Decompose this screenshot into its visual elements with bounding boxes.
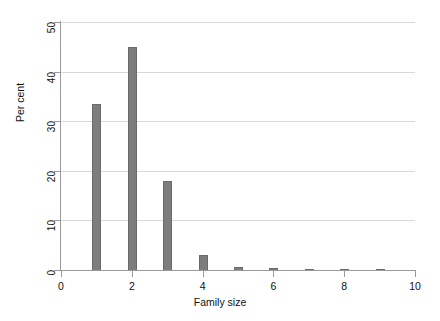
y-axis-line bbox=[60, 21, 61, 271]
x-tick-0 bbox=[61, 271, 62, 277]
gridline-30 bbox=[61, 121, 415, 122]
bar-family-size-4 bbox=[199, 255, 208, 270]
gridline-10 bbox=[61, 220, 415, 221]
x-tick-10 bbox=[415, 271, 416, 277]
y-tick-label-0: 0 bbox=[47, 270, 57, 276]
y-tick-label-20: 20 bbox=[47, 171, 57, 182]
x-tick-label-4: 4 bbox=[188, 280, 218, 292]
x-axis-title: Family size bbox=[0, 296, 440, 308]
gridline-40 bbox=[61, 72, 415, 73]
x-tick-4 bbox=[203, 271, 204, 277]
x-tick-label-2: 2 bbox=[117, 280, 147, 292]
x-axis-line bbox=[61, 270, 416, 271]
bar-family-size-1 bbox=[92, 104, 101, 270]
y-tick-label-10: 10 bbox=[47, 220, 57, 231]
x-tick-label-8: 8 bbox=[329, 280, 359, 292]
x-tick-label-6: 6 bbox=[258, 280, 288, 292]
bar-family-size-3 bbox=[163, 181, 172, 270]
y-tick-label-50: 50 bbox=[47, 22, 57, 33]
gridline-20 bbox=[61, 171, 415, 172]
x-tick-label-10: 10 bbox=[400, 280, 430, 292]
x-tick-label-0: 0 bbox=[46, 280, 76, 292]
y-tick-label-40: 40 bbox=[47, 72, 57, 83]
plot-area bbox=[61, 22, 415, 270]
x-tick-6 bbox=[273, 271, 274, 277]
x-tick-8 bbox=[344, 271, 345, 277]
bar-family-size-2 bbox=[128, 47, 137, 270]
y-tick-label-30: 30 bbox=[47, 121, 57, 132]
y-axis-title: Per cent bbox=[14, 83, 26, 122]
family-size-bar-chart: 0 10 20 30 40 50 0 2 4 6 8 10 Family siz… bbox=[0, 0, 440, 321]
x-tick-2 bbox=[132, 271, 133, 277]
gridline-50 bbox=[61, 22, 415, 23]
